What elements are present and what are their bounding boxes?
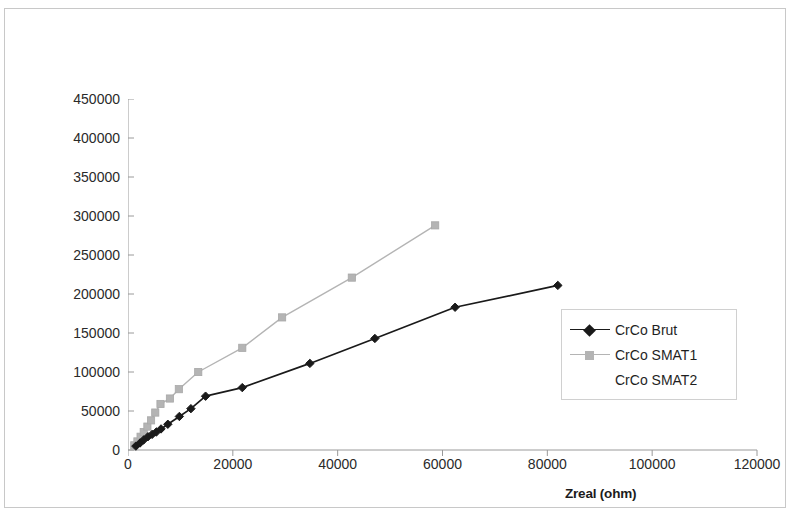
y-axis-tick-labels: 0500001000001500002000002500003000003500… — [36, 9, 120, 450]
data-point-marker — [306, 359, 314, 367]
y-tick-label: 100000 — [40, 364, 120, 380]
y-tick-label: 450000 — [40, 91, 120, 107]
x-axis-tick-labels: 020000400006000080000100000120000 — [5, 456, 787, 482]
legend-label: CrCo SMAT1 — [615, 347, 697, 363]
data-point-marker — [175, 386, 182, 393]
legend-item-crco-smat2: CrCo SMAT2 — [570, 367, 730, 392]
series-line — [136, 285, 558, 446]
y-tick-label: 350000 — [40, 169, 120, 185]
legend-key-swatch — [570, 348, 610, 362]
data-point-marker — [279, 314, 286, 321]
legend-diamond-marker-icon — [583, 324, 596, 337]
data-point-marker — [348, 274, 355, 281]
data-point-marker — [147, 417, 154, 424]
y-tick-label: 250000 — [40, 247, 120, 263]
data-point-marker — [195, 368, 202, 375]
legend-key-swatch — [570, 323, 610, 337]
y-tick-label: 50000 — [40, 403, 120, 419]
data-point-marker — [432, 222, 439, 229]
data-point-marker — [166, 395, 173, 402]
legend-label: CrCo SMAT2 — [615, 372, 697, 388]
legend-label: CrCo Brut — [615, 322, 677, 338]
chart-legend: CrCo BrutCrCo SMAT1CrCo SMAT2 — [561, 309, 737, 400]
legend-square-marker-icon — [585, 351, 594, 360]
series-canvas — [128, 99, 788, 459]
data-point-marker — [157, 400, 164, 407]
y-tick-label: 200000 — [40, 286, 120, 302]
chart-frame: -Zimag (ohm) 050000100000150000200000250… — [4, 8, 786, 508]
data-point-marker — [152, 409, 159, 416]
legend-item-crco-brut: CrCo Brut — [570, 317, 730, 342]
data-point-marker — [238, 383, 246, 391]
data-point-marker — [371, 334, 379, 342]
legend-key-swatch — [570, 373, 610, 387]
data-point-marker — [451, 303, 459, 311]
y-tick-label: 300000 — [40, 208, 120, 224]
y-tick-label: 150000 — [40, 325, 120, 341]
x-axis-title: Zreal (ohm) — [565, 486, 636, 501]
legend-item-crco-smat1: CrCo SMAT1 — [570, 342, 730, 367]
data-point-marker — [239, 344, 246, 351]
data-point-marker — [554, 281, 562, 289]
series-crco-brut — [132, 281, 562, 450]
y-tick-label: 400000 — [40, 130, 120, 146]
